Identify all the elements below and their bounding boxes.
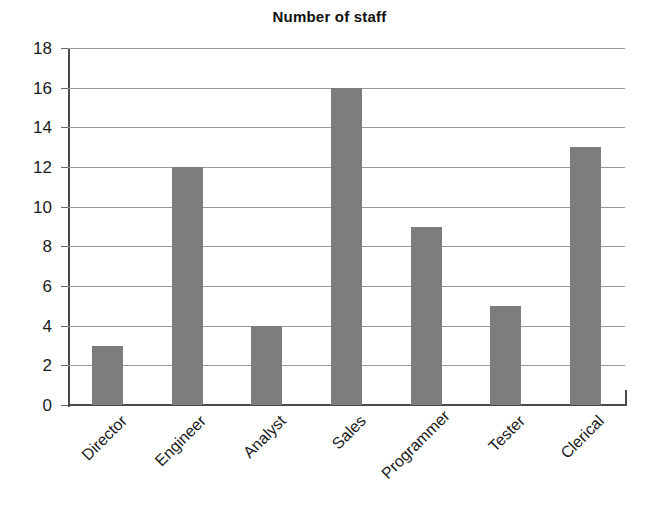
x-label-clerical: Clerical [537, 412, 608, 483]
y-tick-label-6: 6 [0, 278, 52, 295]
y-tick-label-4: 4 [0, 318, 52, 335]
x-label-programmer: Programmer [378, 412, 449, 483]
gridline-18 [68, 48, 625, 49]
bar-tester [490, 306, 521, 405]
y-tick-label-16: 16 [0, 80, 52, 97]
bar-engineer [172, 167, 203, 405]
bar-analyst [251, 326, 282, 405]
x-label-director: Director [60, 412, 131, 483]
x-label-engineer: Engineer [139, 412, 210, 483]
bar-clerical [570, 147, 601, 405]
y-tick-label-10: 10 [0, 199, 52, 216]
x-label-sales: Sales [299, 412, 370, 483]
x-axis-end-tick [625, 390, 627, 406]
bar-programmer [411, 227, 442, 406]
plot-area [68, 48, 625, 405]
bar-chart-screenshot: Number of staff 024681012141618 Director… [0, 0, 659, 523]
y-tick-label-18: 18 [0, 40, 52, 57]
chart-title: Number of staff [0, 8, 659, 25]
x-label-tester: Tester [458, 412, 529, 483]
y-tick-label-2: 2 [0, 357, 52, 374]
y-tick-label-8: 8 [0, 238, 52, 255]
y-tick-label-14: 14 [0, 119, 52, 136]
x-label-analyst: Analyst [219, 412, 290, 483]
bar-director [92, 346, 123, 406]
y-tick-label-12: 12 [0, 159, 52, 176]
y-tick-label-0: 0 [0, 397, 52, 414]
bar-sales [331, 88, 362, 405]
